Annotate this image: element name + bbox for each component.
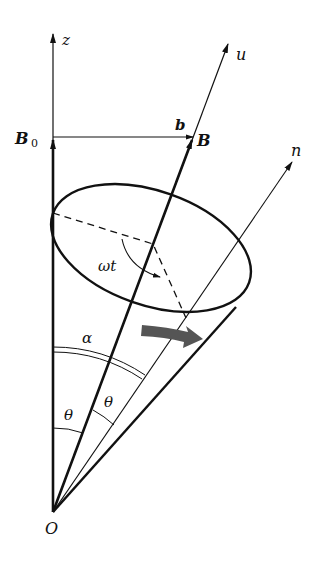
- omega-t-label: ωt: [98, 257, 117, 275]
- origin-label: O: [45, 519, 58, 538]
- B0-subscript: 0: [31, 137, 38, 150]
- alpha-arc-outer: [53, 347, 145, 375]
- alpha-label: α: [82, 329, 92, 347]
- cone-edge: [53, 307, 236, 512]
- omega-t-arc: [122, 239, 160, 277]
- theta-label-1: θ: [64, 406, 73, 424]
- B0-label: B: [14, 129, 29, 148]
- n-axis-label: n: [291, 141, 301, 160]
- z-axis-label: z: [61, 31, 70, 49]
- rotation-arrow-icon: [141, 325, 203, 348]
- B-label: B: [196, 131, 211, 150]
- theta-arc-1: [53, 428, 83, 433]
- theta-arc-2: [93, 410, 114, 425]
- theta-label-2: θ: [104, 393, 113, 411]
- b-label: b: [175, 116, 186, 134]
- u-axis-label: u: [236, 45, 246, 64]
- precession-cone-diagram: z u n B 0 b B ωt α θ θ O: [0, 0, 323, 561]
